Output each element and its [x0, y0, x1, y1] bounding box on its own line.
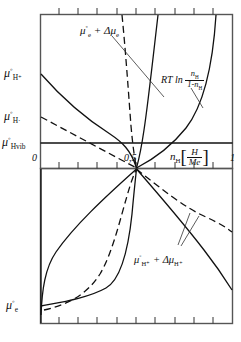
label-mu0-Hplus: μ◦H⁺: [4, 66, 22, 82]
leader-mu-e-delta: [112, 36, 164, 97]
curve-mu0-Hplus-delta-solid: [137, 169, 233, 290]
label-mu0-Hdot: μ◦H·: [4, 109, 21, 125]
annotation-rt-ln: RT ln nH 1-nH: [161, 70, 204, 91]
label-mu0-Hvib: μ◦Hvib: [2, 135, 26, 151]
curve-mu0-e-dashed: [44, 169, 137, 310]
xtick-label-0: 0: [32, 152, 37, 163]
curve-mu0-e-lower-solid: [41, 169, 137, 306]
curve-mu0-Hplus-decay: [41, 74, 137, 168]
rt-ln-fraction: nH 1-nH: [185, 70, 204, 91]
bottom-axis-ticks: [59, 317, 213, 324]
label-mu0-e-bottom: μ◦e: [6, 298, 18, 314]
curve-mu0-e-upper-solid: [41, 169, 137, 315]
curve-electron-steep-solid: [137, 15, 159, 168]
xtick-label-half: 0,5: [124, 152, 137, 163]
xaxis-title: nH[ H Me ]: [170, 148, 209, 167]
plot-svg: [0, 0, 241, 342]
figure-container: μ◦H⁺ μ◦H· μ◦Hvib μ◦e + Δμe RT ln nH 1-nH…: [0, 0, 241, 342]
top-axis-ticks: [59, 8, 213, 15]
annotation-mu0-e-plus-delta: μ◦e + Δμe: [80, 24, 119, 39]
xtick-label-one: 1: [230, 152, 235, 163]
annotation-mu0-Hplus-plus-delta: μ◦H⁺ + ΔμH⁺: [134, 253, 183, 267]
x-label-fraction: H Me: [187, 148, 203, 167]
bracket-close: ]: [202, 148, 208, 167]
curve-mu0-Hplus-delta-dashed: [137, 169, 233, 232]
